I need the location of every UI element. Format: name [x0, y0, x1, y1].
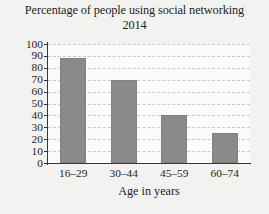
bar	[60, 58, 86, 163]
x-axis-line	[47, 163, 251, 164]
y-tick-label: 90	[3, 50, 43, 61]
y-tick-label: 40	[3, 110, 43, 121]
y-tick-label: 70	[3, 74, 43, 85]
y-tick-label: 100	[3, 39, 43, 50]
gridline	[48, 56, 250, 57]
x-tick-label: 45–59	[149, 167, 200, 180]
y-tick-mark	[44, 127, 48, 128]
x-tick-label: 16–29	[48, 167, 99, 180]
y-tick-mark	[44, 115, 48, 116]
y-tick-label: 20	[3, 134, 43, 145]
y-tick-mark	[44, 68, 48, 69]
bar	[212, 133, 238, 163]
y-tick-label: 50	[3, 98, 43, 109]
chart-title-line-1: Percentage of people using social networ…	[25, 3, 244, 17]
y-tick-label: 10	[3, 146, 43, 157]
y-tick-mark	[44, 92, 48, 93]
bar	[161, 115, 187, 163]
y-tick-mark	[44, 139, 48, 140]
plot-area	[48, 44, 250, 163]
y-tick-label: 30	[3, 122, 43, 133]
gridline	[48, 44, 250, 45]
x-tick-label: 30–44	[99, 167, 150, 180]
y-tick-mark	[44, 44, 48, 45]
y-tick-label: 80	[3, 62, 43, 73]
bar-chart: Percentage of people using social networ…	[0, 0, 269, 214]
x-tick-label: 60–74	[200, 167, 251, 180]
y-tick-mark	[44, 163, 48, 164]
y-tick-label: 60	[3, 86, 43, 97]
chart-title: Percentage of people using social networ…	[0, 3, 269, 33]
y-tick-label: 0	[3, 158, 43, 169]
y-tick-mark	[44, 104, 48, 105]
bar	[111, 80, 137, 163]
x-axis-title: Age in years	[48, 184, 250, 199]
chart-title-line-2: 2014	[0, 18, 269, 33]
y-tick-mark	[44, 80, 48, 81]
y-tick-mark	[44, 56, 48, 57]
y-tick-mark	[44, 151, 48, 152]
